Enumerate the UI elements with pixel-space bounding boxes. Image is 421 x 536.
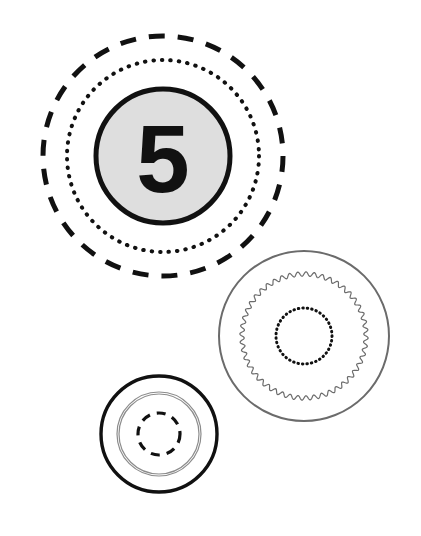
rings-figure: 5 xyxy=(0,0,421,536)
canvas-background xyxy=(0,0,421,536)
diagram-canvas: 5 xyxy=(0,0,421,536)
badge-number-label: 5 xyxy=(136,105,189,212)
